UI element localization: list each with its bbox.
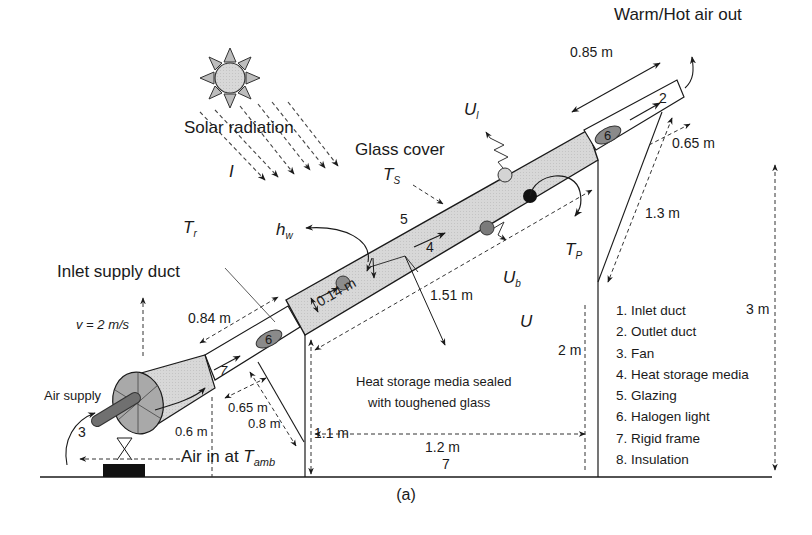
solar-radiation-rays: [200, 102, 338, 180]
num-frame-inlet: 7: [220, 363, 228, 378]
hot-air-out-arrow: [685, 57, 693, 88]
dim-label-inlet-offset: 0.65 m: [228, 400, 268, 415]
label-ts: TS: [383, 165, 400, 186]
label-inlet-supply-duct: Inlet supply duct: [57, 262, 180, 281]
label-air-in: Air in at Tamb: [181, 447, 275, 468]
legend-item: 7. Rigid frame: [616, 428, 749, 449]
sensor-bottom-ub: [480, 221, 494, 235]
num-halogen-top: 6: [604, 128, 611, 143]
dim-label-rear-support: 1.3 m: [645, 205, 680, 221]
dim-label-inlet-length: 0.84 m: [188, 310, 231, 326]
figure-caption: (a): [0, 486, 812, 504]
legend-item: 6. Halogen light: [616, 406, 749, 427]
dim-label-front-height: 1.1 m: [314, 425, 349, 441]
num-glazing: 5: [400, 211, 408, 227]
label-glass-cover: Glass cover: [355, 140, 445, 159]
component-legend: 1. Inlet duct 2. Outlet duct 3. Fan 4. H…: [616, 300, 749, 470]
num-fan: 3: [78, 424, 86, 440]
label-heat-storage-note-1: Heat storage media sealed: [356, 374, 511, 389]
legend-item: 5. Glazing: [616, 385, 749, 406]
legend-item: 3. Fan: [616, 343, 749, 364]
label-solar-radiation: Solar radiation: [184, 118, 294, 137]
label-ul: Ul: [464, 100, 479, 121]
ul-heat-loss-icon: [486, 132, 508, 168]
label-warm-air-out: Warm/Hot air out: [614, 5, 742, 24]
ub-heat-loss-icon: [494, 222, 506, 240]
collector-body: [286, 130, 598, 335]
label-ub: Ub: [503, 268, 521, 289]
num-frame-bottom: 7: [442, 456, 450, 472]
label-air-supply: Air supply: [44, 388, 102, 403]
sun-icon: [200, 48, 260, 108]
legend-item: 2. Outlet duct: [616, 321, 749, 342]
dim-label-base-width: 1.2 m: [425, 439, 460, 455]
dim-label-outlet-offset: 0.65 m: [672, 135, 715, 151]
dim-label-collector-length: 1.51 m: [430, 287, 473, 303]
fan-base: [103, 464, 145, 477]
label-tr: Tr: [183, 218, 197, 239]
dim-label-fan-height: 0.6 m: [175, 424, 208, 439]
dim-label-mid-height: 2 m: [558, 342, 581, 358]
hw-arrow: [306, 228, 368, 262]
legend-item: 8. Insulation: [616, 449, 749, 470]
label-hw: hw: [276, 220, 293, 241]
glass-cover-pointer: [413, 185, 443, 204]
num-halogen-bottom: 6: [265, 332, 272, 347]
label-tp: TP: [565, 240, 582, 261]
label-heat-storage-note-2: with toughened glass: [367, 395, 491, 410]
label-u: U: [520, 312, 533, 331]
label-irradiance: I: [229, 162, 234, 181]
sensor-top-ul: [498, 168, 512, 182]
dim-label-total-height: 3 m: [746, 301, 769, 317]
legend-item: 1. Inlet duct: [616, 300, 749, 321]
dim-label-inlet-support: 0.8 m: [248, 416, 281, 431]
dim-inlet-offset: [225, 378, 266, 398]
legend-item: 4. Heat storage media: [616, 364, 749, 385]
dim-rear-support: [608, 118, 672, 282]
fan-stand: [117, 438, 132, 460]
num-outlet: 2: [659, 90, 667, 106]
label-velocity: v = 2 m/s: [76, 317, 130, 332]
dim-label-outlet-length: 0.85 m: [570, 44, 613, 60]
num-storage: 4: [426, 239, 434, 255]
